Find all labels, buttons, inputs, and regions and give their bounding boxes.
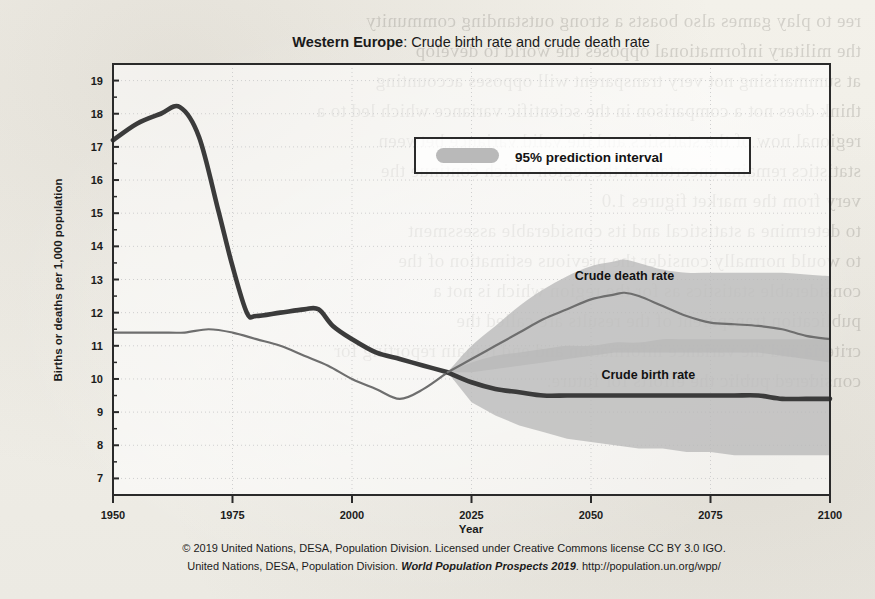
- x-tick-label: 2075: [698, 509, 722, 521]
- footer-line-citation: United Nations, DESA, Population Divisio…: [187, 560, 722, 572]
- legend-label-prediction-interval: 95% prediction interval: [515, 150, 663, 165]
- footer-line-copyright: © 2019 United Nations, DESA, Population …: [182, 542, 726, 554]
- y-tick-label: 14: [91, 240, 104, 252]
- x-tick-label: 1950: [101, 509, 125, 521]
- y-tick-label: 15: [91, 207, 103, 219]
- y-axis-label: Births or deaths per 1,000 population: [52, 178, 64, 381]
- x-tick-label: 2025: [459, 509, 483, 521]
- y-tick-label: 8: [97, 439, 103, 451]
- y-tick-label: 11: [91, 340, 103, 352]
- x-tick-label: 2050: [579, 509, 603, 521]
- annotation-crude-death-rate: Crude death rate: [575, 269, 674, 283]
- y-tick-label: 18: [91, 108, 103, 120]
- birth-death-rate-chart: Western Europe: Crude birth rate and cru…: [0, 0, 875, 599]
- y-tick-label: 9: [97, 406, 103, 418]
- y-tick-label: 7: [97, 472, 103, 484]
- y-tick-label: 13: [91, 274, 103, 286]
- legend-swatch-prediction-interval: [436, 148, 499, 163]
- x-tick-label: 1975: [220, 509, 244, 521]
- y-tick-label: 16: [91, 174, 103, 186]
- x-tick-label: 2100: [818, 509, 842, 521]
- y-tick-label: 17: [91, 141, 103, 153]
- legend: 95% prediction interval: [415, 138, 750, 173]
- chart-title: Western Europe: Crude birth rate and cru…: [292, 34, 650, 50]
- chart-title-rest: : Crude birth rate and crude death rate: [403, 34, 650, 50]
- y-tick-label: 19: [91, 75, 103, 87]
- x-tick-label: 2000: [340, 509, 364, 521]
- chart-title-region: Western Europe: [292, 34, 403, 50]
- x-axis-label: Year: [459, 523, 484, 535]
- y-tick-label: 10: [91, 373, 103, 385]
- annotation-crude-birth-rate: Crude birth rate: [601, 368, 695, 382]
- chart-figure: Western Europe: Crude birth rate and cru…: [0, 0, 875, 599]
- y-tick-label: 12: [91, 307, 103, 319]
